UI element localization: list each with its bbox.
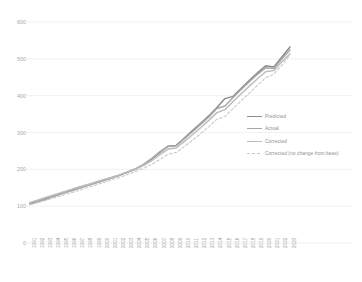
x-axis-tick-label: 2013 bbox=[210, 238, 215, 248]
legend-item-label: Corrected (no change from base) bbox=[265, 151, 339, 156]
x-axis-tick-label: 1998 bbox=[88, 238, 93, 248]
x-axis-tick-label: 2020 bbox=[267, 238, 272, 248]
x-axis-tick-label: 2006 bbox=[153, 238, 158, 248]
x-axis-tick-label: 1996 bbox=[72, 238, 77, 248]
x-axis-tick-label: 2002 bbox=[121, 238, 126, 248]
x-axis-tick-label: 2007 bbox=[162, 238, 167, 248]
legend-swatch-line-icon bbox=[247, 116, 262, 117]
x-axis-tick-label: 2004 bbox=[137, 238, 142, 248]
legend-item[interactable]: Predicted bbox=[247, 110, 362, 123]
legend-item-label: Corrected bbox=[265, 139, 287, 144]
legend-item[interactable]: Corrected bbox=[247, 135, 362, 148]
x-axis-tick-label: 2000 bbox=[105, 238, 110, 248]
x-axis-tick-label: 2005 bbox=[145, 238, 150, 248]
legend-item-label: Predicted bbox=[265, 114, 286, 119]
x-axis-tick-label: 2001 bbox=[113, 238, 118, 248]
x-axis-tick-label: 1991 bbox=[32, 238, 37, 248]
legend-item-label: Actual bbox=[265, 126, 279, 131]
x-axis-tick-label: 1994 bbox=[56, 238, 61, 248]
x-axis-tick-label: 1997 bbox=[80, 238, 85, 248]
x-axis-tick-label: 2009 bbox=[178, 238, 183, 248]
x-axis-tick-label: 2017 bbox=[243, 238, 248, 248]
x-axis-tick-label: 1999 bbox=[97, 238, 102, 248]
x-axis-tick-label: 2021 bbox=[275, 238, 280, 248]
legend-swatch-dashed-icon bbox=[247, 153, 262, 154]
legend-item[interactable]: Actual bbox=[247, 123, 362, 136]
x-axis-tick-label: 2023 bbox=[292, 238, 297, 248]
x-axis-tick-label: 2015 bbox=[227, 238, 232, 248]
x-axis-tick-label: 2010 bbox=[186, 238, 191, 248]
legend-item[interactable]: Corrected (no change from base) bbox=[247, 148, 362, 161]
x-axis-tick-label: 2012 bbox=[202, 238, 207, 248]
line-chart: 6005004003002001000 19911992199319941995… bbox=[0, 0, 362, 282]
x-axis-tick-label: 2018 bbox=[251, 238, 256, 248]
x-axis-tick-label: 1995 bbox=[64, 238, 69, 248]
x-axis-tick-label: 2019 bbox=[259, 238, 264, 248]
x-axis-tick-label: 2008 bbox=[170, 238, 175, 248]
x-axis-tick-label: 2022 bbox=[283, 238, 288, 248]
legend-swatch-line-icon bbox=[247, 128, 262, 129]
legend-swatch-line-icon bbox=[247, 141, 262, 142]
chart-legend: PredictedActualCorrectedCorrected (no ch… bbox=[247, 110, 362, 160]
x-axis-tick-label: 2014 bbox=[218, 238, 223, 248]
x-axis-tick-label: 2003 bbox=[129, 238, 134, 248]
x-axis-tick-label: 1992 bbox=[40, 238, 45, 248]
x-axis-tick-label: 1993 bbox=[48, 238, 53, 248]
x-axis-tick-label: 2011 bbox=[194, 238, 199, 248]
x-axis-tick-label: 2016 bbox=[235, 238, 240, 248]
